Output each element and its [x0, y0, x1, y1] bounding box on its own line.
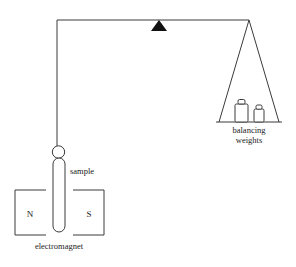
weight-large-body: [235, 104, 248, 122]
hanger-ring-icon: [52, 146, 64, 158]
weight-small-body: [254, 109, 264, 122]
weight-large-knob: [238, 100, 245, 105]
sample-tube: [53, 158, 65, 232]
fulcrum-triangle-icon: [151, 20, 167, 31]
balancing-weights-label-line2: weights: [236, 135, 262, 145]
sample-label: sample: [70, 166, 94, 176]
south-pole-label: S: [86, 209, 91, 219]
apparatus-diagram: sample N S electromagnet balancing weigh…: [0, 0, 296, 267]
weight-small-knob: [256, 105, 262, 109]
pan-right-cord: [249, 20, 279, 122]
gouy-balance-figure: sample N S electromagnet balancing weigh…: [0, 0, 296, 267]
balancing-weights-label-line1: balancing: [232, 125, 266, 135]
north-pole-label: N: [27, 209, 34, 219]
electromagnet-label: electromagnet: [35, 241, 84, 251]
